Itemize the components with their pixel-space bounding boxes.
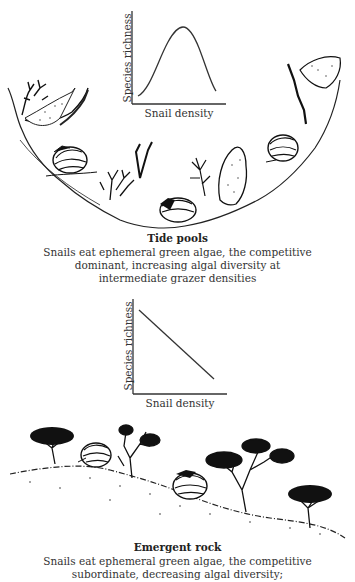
coralline-alga-tree [30,427,74,464]
coralline-alga-tree [288,485,332,528]
caption-line: subordinate, decreasing algal diversity; [0,568,355,581]
caption-line: Snails eat ephemeral green algae, the co… [0,555,355,568]
emergent-rock-illustration [0,0,355,582]
branched-alga [118,425,160,478]
snail-icon [78,443,111,467]
snail-icon [173,470,207,499]
emergent-rock-caption: Snails eat ephemeral green algae, the co… [0,555,355,581]
emergent-rock-title: Emergent rock [0,541,355,553]
branched-alga [206,439,294,512]
